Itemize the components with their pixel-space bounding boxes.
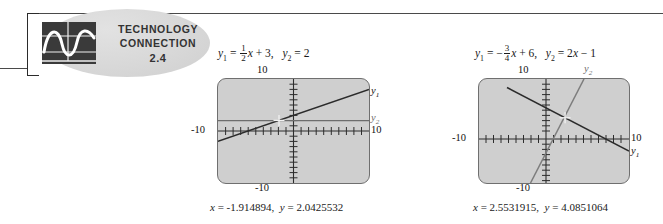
badge-line-1: TECHNOLOGY [110,22,206,36]
badge-line-2: CONNECTION [110,36,206,50]
graph-right-y-value: 4.0851064 [561,201,608,213]
graph-right-equation: y1 = −34x + 6, y2 = 2x − 1 [475,44,596,63]
badge-label: TECHNOLOGY CONNECTION 2.4 [110,22,206,65]
graph-left-axis-bottom-label: -10 [255,182,269,193]
graph-right-axis-top-label: 10 [518,64,529,75]
graph-right-caption: x = 2.5531915, y = 4.0851064 [473,201,608,213]
left-horizontal-rule [0,68,28,69]
graph-right-screen [478,78,630,184]
graph-left-x-value: -1.914894 [227,201,272,213]
graph-right-axis-left-label: -10 [452,132,466,143]
badge-line-3: 2.4 [110,51,206,65]
graph-left-curve-label-y2: y2 [371,112,379,126]
graph-left-screen [217,78,370,184]
graph-left-equation: y1 = 12x + 3, y2 = 2 [218,44,309,63]
graph-right-axis-right-label: 10 [631,132,642,143]
graph-right-x-value: 2.5531915 [490,201,537,213]
technology-connection-figure: TECHNOLOGY CONNECTION 2.4 y1 = 12x + 3, … [0,0,663,224]
section-bracket [27,13,39,76]
graph-left-axis-left-label: -10 [191,124,205,135]
graph-left-caption: x = -1.914894, y = 2.0425532 [210,201,343,213]
graph-right-curve-label-y2: y2 [584,63,592,77]
graph-right-axis-bottom-label: -10 [516,182,530,193]
graph-curve-icon [42,22,96,64]
graph-left-axis-top-label: 10 [257,64,268,75]
graph-left-y-value: 2.0425532 [296,201,343,213]
graph-right-curve-label-y1: y1 [631,145,639,159]
graph-left-curve-label-y1: y1 [371,85,379,99]
